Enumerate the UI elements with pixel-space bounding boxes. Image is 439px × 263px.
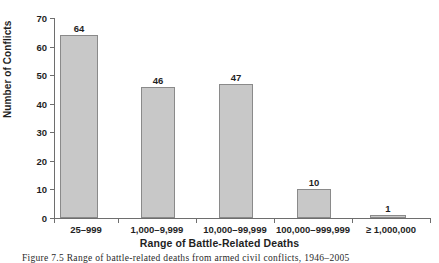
y-tick-60 — [50, 47, 54, 48]
y-tick-20 — [50, 161, 54, 162]
x-tick-3 — [274, 219, 275, 223]
y-tick-label-10: 10 — [36, 184, 47, 195]
x-category-label-2: 10,000–99,999 — [203, 225, 266, 235]
figure-caption: Figure 7.5 Range of battle-related death… — [22, 253, 422, 263]
y-tick-label-70: 70 — [36, 13, 47, 24]
x-axis-line — [54, 218, 431, 219]
bar-value-3: 10 — [309, 178, 320, 188]
x-axis-title: Range of Battle-Related Deaths — [0, 237, 439, 249]
bar-value-0: 64 — [74, 24, 85, 34]
y-tick-label-20: 20 — [36, 155, 47, 166]
x-tick-4 — [352, 219, 353, 223]
y-tick-label-50: 50 — [36, 70, 47, 81]
bar-value-1: 46 — [153, 76, 164, 86]
bar-value-2: 47 — [231, 73, 242, 83]
x-category-label-3: 100,000–999,999 — [276, 225, 350, 235]
y-axis-title: Number of Conflicts — [2, 21, 13, 118]
bar-0[interactable] — [60, 35, 98, 218]
x-tick-0 — [54, 219, 55, 223]
y-tick-label-60: 60 — [36, 41, 47, 52]
x-tick-5 — [430, 219, 431, 223]
bar-3[interactable] — [297, 189, 331, 218]
x-category-label-1: 1,000–9,999 — [131, 225, 184, 235]
bar-value-4: 1 — [385, 204, 390, 214]
bar-1[interactable] — [141, 87, 175, 218]
x-category-label-0: 25–999 — [70, 225, 102, 235]
y-axis-line — [54, 18, 55, 218]
y-tick-40 — [50, 104, 54, 105]
y-tick-10 — [50, 189, 54, 190]
x-tick-2 — [196, 219, 197, 223]
x-tick-1 — [118, 219, 119, 223]
y-tick-50 — [50, 75, 54, 76]
y-tick-30 — [50, 132, 54, 133]
y-tick-label-0: 0 — [42, 213, 47, 224]
bar-4[interactable] — [370, 215, 406, 218]
plot-area: 0 10 20 30 40 50 60 70 64 46 47 10 1 25–… — [54, 18, 431, 218]
y-tick-label-40: 40 — [36, 98, 47, 109]
y-tick-label-30: 30 — [36, 127, 47, 138]
bar-2[interactable] — [219, 84, 253, 218]
y-tick-70 — [50, 18, 54, 19]
x-category-label-4: ≥ 1,000,000 — [366, 225, 416, 235]
